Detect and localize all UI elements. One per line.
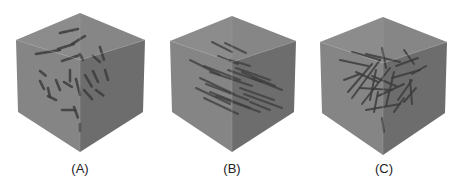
- panel-b-aligned-fibers: [170, 16, 296, 152]
- fiber-orientation-figure: [0, 0, 462, 183]
- cube-back-shade: [232, 16, 296, 152]
- panel-label-a: (A): [60, 161, 100, 176]
- cube-back-shade: [383, 17, 447, 155]
- panel-label-c: (C): [364, 161, 404, 176]
- panel-label-b: (B): [212, 161, 252, 176]
- panel-c-random-straight-fibers: [320, 17, 447, 155]
- panel-a-random-coiled-fibers: [16, 13, 145, 152]
